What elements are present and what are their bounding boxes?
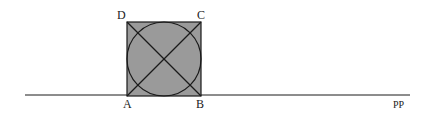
label-d: D xyxy=(117,8,126,22)
label-a: A xyxy=(123,97,132,111)
label-pp: PP xyxy=(393,99,405,110)
diagram-canvas: D C A B PP xyxy=(0,0,430,113)
label-c: C xyxy=(197,8,205,22)
label-b: B xyxy=(196,97,204,111)
